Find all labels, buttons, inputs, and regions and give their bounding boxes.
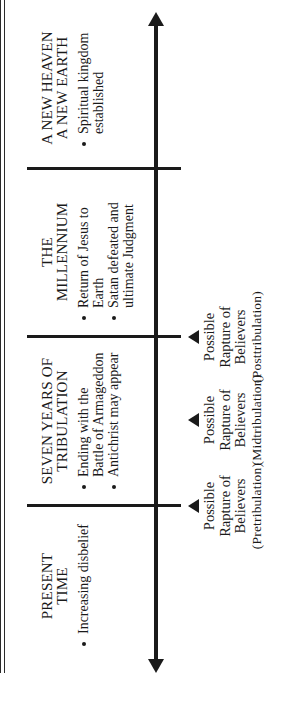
rapture-label: (Posttribulation)	[249, 291, 264, 383]
page-border	[0, 0, 5, 673]
era-bullets: Return of Jesus to Earth Satan defeated …	[76, 182, 136, 322]
rapture-posttribulation: Possible Rapture of Believers (Posttribu…	[188, 282, 264, 392]
triangle-up-icon	[188, 499, 199, 513]
era-title: PRESENT TIME	[40, 553, 70, 619]
rapture-text: Possible Rapture of Believers	[202, 306, 249, 368]
timeline-axis	[154, 20, 158, 665]
era-bullet: Ending with the Battle of Armageddon	[76, 351, 106, 491]
rapture-text: Possible Rapture of Believers	[202, 389, 249, 451]
era-bullet: Antichrist may appear	[106, 351, 121, 491]
era-new-heaven-earth: A NEW HEAVEN A NEW EARTH Spiritual kingd…	[30, 13, 150, 163]
rapture-label: (Pretribulation)	[249, 463, 264, 549]
era-title: A NEW HEAVEN A NEW EARTH	[40, 31, 70, 145]
divider-millennium-newheaven	[27, 167, 181, 170]
timeline-diagram: PRESENT TIME Increasing disbelief SEVEN …	[0, 0, 290, 701]
era-bullet: Spiritual kingdom established	[76, 28, 106, 148]
era-bullets: Increasing disbelief	[76, 524, 91, 648]
era-bullets: Ending with the Battle of Armageddon Ant…	[76, 351, 121, 491]
era-present-time: PRESENT TIME Increasing disbelief	[30, 511, 150, 661]
era-millennium: THE MILLENNIUM Return of Jesus to Earth …	[30, 173, 150, 331]
triangle-up-icon	[188, 330, 199, 344]
triangle-up-icon	[188, 413, 199, 427]
divider-tribulation-millennium	[27, 335, 181, 338]
era-bullet: Satan defeated and ultimate Judgment	[106, 182, 136, 322]
era-title: SEVEN YEARS OF TRIBULATION	[40, 358, 70, 484]
arrow-right-icon	[148, 12, 164, 26]
era-bullets: Spiritual kingdom established	[76, 28, 106, 148]
divider-present-tribulation	[27, 504, 181, 507]
rapture-text: Possible Rapture of Believers	[202, 475, 249, 537]
era-bullet: Return of Jesus to Earth	[76, 182, 106, 322]
era-tribulation: SEVEN YEARS OF TRIBULATION Ending with t…	[30, 341, 150, 501]
era-bullet: Increasing disbelief	[76, 524, 91, 648]
era-title: THE MILLENNIUM	[40, 203, 70, 302]
